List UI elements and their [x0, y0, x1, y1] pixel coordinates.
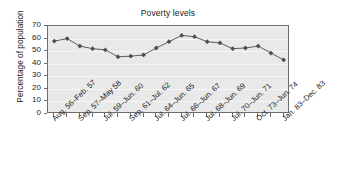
x-tick-mark — [244, 113, 245, 117]
data-point-marker — [90, 46, 95, 51]
x-tick-mark — [92, 113, 93, 117]
data-point-marker — [77, 44, 82, 49]
x-tick-mark — [232, 113, 233, 117]
x-tick-mark — [104, 113, 105, 117]
x-tick-mark — [143, 113, 144, 117]
data-point-marker — [167, 39, 172, 44]
data-point-marker — [205, 39, 210, 44]
y-axis-ticks: 010203040506070 — [0, 25, 47, 113]
y-tick-label: 10 — [1, 96, 41, 104]
plot-inner — [48, 26, 288, 112]
x-tick-mark — [168, 113, 169, 117]
data-point-marker — [256, 44, 261, 49]
plot-area — [47, 25, 289, 113]
data-point-marker — [230, 46, 235, 51]
data-point-marker — [218, 41, 223, 46]
data-point-marker — [179, 33, 184, 38]
x-tick-mark — [181, 113, 182, 117]
y-tick-label: 70 — [1, 21, 41, 29]
data-point-marker — [128, 54, 133, 59]
x-tick-mark — [79, 113, 80, 117]
y-tick-label: 40 — [1, 59, 41, 67]
data-point-marker — [154, 46, 159, 51]
y-tick-label: 50 — [1, 46, 41, 54]
x-tick-mark — [193, 113, 194, 117]
x-tick-mark — [155, 113, 156, 117]
y-tick-label: 20 — [1, 84, 41, 92]
x-tick-mark — [206, 113, 207, 117]
x-axis-ticks — [47, 113, 289, 117]
x-tick-mark — [66, 113, 67, 117]
data-point-marker — [281, 58, 286, 63]
data-point-marker — [268, 51, 273, 56]
y-tick-label: 0 — [1, 109, 41, 117]
x-tick-mark — [283, 113, 284, 117]
x-tick-mark — [257, 113, 258, 117]
x-tick-mark — [270, 113, 271, 117]
x-tick-mark — [130, 113, 131, 117]
data-point-marker — [65, 36, 70, 41]
x-tick-mark — [219, 113, 220, 117]
data-point-marker — [52, 39, 57, 44]
x-tick-mark — [53, 113, 54, 117]
x-tick-mark — [117, 113, 118, 117]
y-tick-label: 30 — [1, 71, 41, 79]
data-point-marker — [243, 46, 248, 51]
data-point-marker — [103, 47, 108, 52]
series-poverty-levels — [48, 26, 289, 113]
series-line — [54, 35, 283, 60]
chart-title: Poverty levels — [47, 8, 289, 18]
data-point-marker — [141, 53, 146, 58]
data-point-marker — [192, 34, 197, 39]
chart-figure: Poverty levels Percentage of population … — [0, 0, 347, 188]
y-tick-label: 60 — [1, 34, 41, 42]
data-point-marker — [116, 54, 121, 59]
